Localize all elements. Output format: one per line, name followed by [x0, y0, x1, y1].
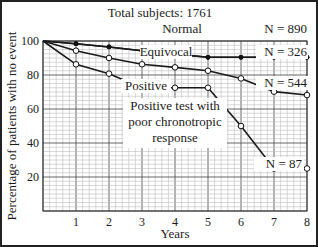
y-tick-label: 20 — [27, 170, 39, 184]
x-tick-label: 1 — [73, 215, 79, 229]
label-n-poor: N = 87 — [266, 156, 303, 171]
x-tick-label: 2 — [106, 215, 112, 229]
x-axis-label: Years — [160, 226, 189, 241]
chart-frame: 2040608010012345678 Total subjects: 1761… — [0, 0, 318, 247]
data-point — [73, 48, 79, 54]
data-point — [106, 71, 112, 77]
label-n-equivocal: N = 326 — [264, 44, 307, 59]
label-poor-line3: response — [152, 130, 198, 145]
survival-chart: 2040608010012345678 Total subjects: 1761… — [0, 0, 318, 247]
x-tick-label: 8 — [304, 215, 310, 229]
x-tick-label: 5 — [205, 215, 211, 229]
data-point — [304, 92, 310, 98]
data-point — [172, 65, 178, 71]
x-tick-label: 6 — [238, 215, 244, 229]
data-point — [73, 61, 79, 67]
y-axis-label: Percentage of patients with no event — [4, 31, 19, 220]
data-point — [106, 55, 112, 61]
label-poor-line1: Positive test with — [130, 98, 220, 113]
data-point — [206, 55, 211, 60]
x-tick-label: 3 — [139, 215, 145, 229]
data-point — [238, 76, 244, 82]
data-point — [139, 61, 145, 67]
data-point — [172, 85, 178, 91]
data-point — [205, 68, 211, 74]
label-positive: Positive — [125, 78, 167, 93]
data-point — [205, 85, 211, 91]
data-point — [239, 55, 244, 60]
label-equivocal: Equivocal — [140, 44, 193, 59]
x-tick-label: 7 — [271, 215, 277, 229]
label-n-normal: N = 890 — [264, 21, 307, 36]
label-n-positive: N = 544 — [264, 75, 307, 90]
y-tick-label: 100 — [21, 34, 39, 48]
data-point — [107, 45, 112, 50]
data-point — [74, 41, 79, 46]
y-tick-label: 60 — [27, 102, 39, 116]
label-normal: Normal — [162, 21, 202, 36]
y-tick-label: 40 — [27, 136, 39, 150]
label-poor-line2: poor chronotropic — [128, 114, 222, 129]
data-point — [304, 166, 310, 172]
chart-title: Total subjects: 1761 — [108, 5, 213, 20]
data-point — [238, 123, 244, 129]
y-tick-label: 80 — [27, 68, 39, 82]
